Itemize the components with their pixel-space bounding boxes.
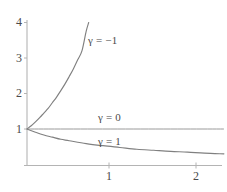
y-tick-label-1: 1 [10, 123, 22, 135]
y-tick-label-4: 4 [10, 16, 22, 28]
y-tick-label-3: 3 [10, 52, 22, 64]
curve-gamma-neg1 [27, 23, 89, 130]
plot-area [0, 0, 227, 192]
x-tick-label-2: 2 [189, 170, 203, 182]
curve-annotation-gamma-1: γ = 1 [98, 136, 121, 147]
curve-annotation-gamma-0: γ = 0 [98, 112, 121, 123]
curve-gamma-1 [27, 129, 224, 154]
x-tick-label-1: 1 [102, 170, 116, 182]
y-tick-label-2: 2 [10, 87, 22, 99]
curve-annotation-gamma-neg1: γ = −1 [88, 35, 117, 46]
chart-figure: 4 3 2 1 1 2 γ = −1 γ = 0 γ = 1 [0, 0, 227, 192]
